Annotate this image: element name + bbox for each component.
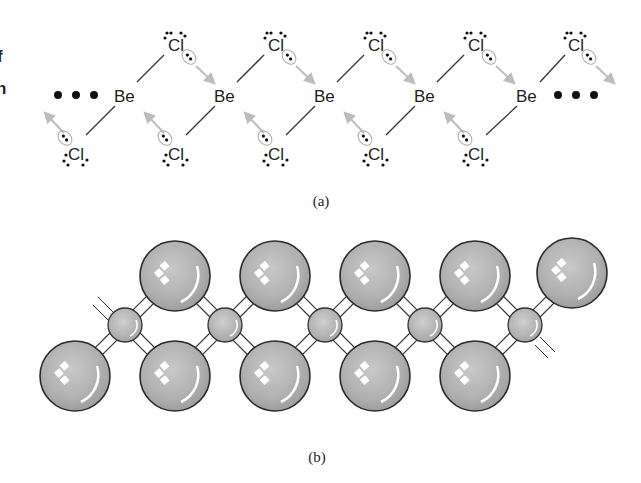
caption-b: (b) — [308, 449, 326, 466]
cl-bottom-group: Cl Cl Cl Cl Cl — [68, 145, 484, 164]
be-atom-label: Be — [414, 87, 435, 106]
be-atom-label: Be — [314, 87, 335, 106]
becl2-chain-figure: f n — [0, 0, 641, 483]
be-atom-label: Be — [114, 87, 135, 106]
ellipsis-left — [54, 91, 98, 99]
be-spheres — [108, 308, 542, 342]
cl-atom-label: Cl — [468, 36, 484, 55]
ball-and-stick-model — [40, 238, 607, 411]
cl-atom-label: Cl — [168, 145, 184, 164]
cl-atom-label: Cl — [468, 145, 484, 164]
be-atom-label: Be — [214, 87, 235, 106]
donor-pair-ovals-top — [179, 47, 598, 67]
cl-atom-label: Cl — [268, 36, 284, 55]
be-atom-label: Be — [516, 87, 537, 106]
cl-atom-label: Cl — [568, 36, 584, 55]
figure-canvas: f n — [0, 0, 641, 483]
cl-spheres-bottom — [40, 341, 510, 411]
cl-atom-label: Cl — [268, 145, 284, 164]
cl-atom-label: Cl — [368, 145, 384, 164]
cl-atom-label: Cl — [368, 36, 384, 55]
ellipsis-right — [554, 91, 598, 99]
lewis-structure-chain: Be Be Be Be Be Cl Cl Cl Cl Cl — [45, 31, 614, 166]
cl-spheres-top — [140, 238, 607, 311]
edge-text-fragment: n — [0, 79, 6, 98]
donor-pair-ovals-bottom — [55, 128, 474, 148]
cl-atom-label: Cl — [168, 36, 184, 55]
edge-text-fragment: f — [0, 47, 3, 66]
cl-atom-label: Cl — [68, 145, 84, 164]
caption-a: (a) — [313, 193, 330, 210]
cl-top-group: Cl Cl Cl Cl Cl — [168, 36, 584, 55]
